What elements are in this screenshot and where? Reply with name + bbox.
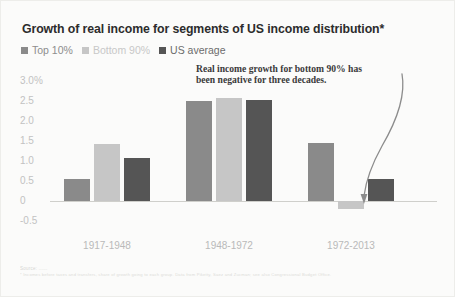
y-axis-tick-label: 0.5 (20, 175, 34, 186)
footnote-line-2: * Incomes before taxes and transfers, sh… (20, 272, 440, 278)
x-axis-category-label: 1917-1948 (44, 240, 170, 251)
annotation-arrow-icon (330, 70, 410, 210)
bar (94, 144, 120, 201)
bar (64, 179, 90, 201)
bar (124, 158, 150, 201)
y-axis-tick-label: -0.5 (20, 215, 37, 226)
bar (216, 98, 242, 201)
x-axis-category-label: 1972-2013 (288, 240, 414, 251)
y-axis-tick-label: 0 (20, 195, 26, 206)
y-axis-tick-label: 2.5 (20, 95, 34, 106)
y-axis-tick-label: 2.0 (20, 115, 34, 126)
y-axis-tick-label: 3.0% (20, 75, 43, 86)
y-axis-tick-label: 1.5 (20, 135, 34, 146)
y-axis-tick-label: 1.0 (20, 155, 34, 166)
chart-footnote: Source: ...... * Incomes before taxes an… (20, 266, 440, 279)
bar (186, 101, 212, 201)
chart-figure: Growth of real income for segments of US… (0, 0, 455, 297)
x-axis-category-label: 1948-1972 (166, 240, 292, 251)
bar (246, 100, 272, 201)
